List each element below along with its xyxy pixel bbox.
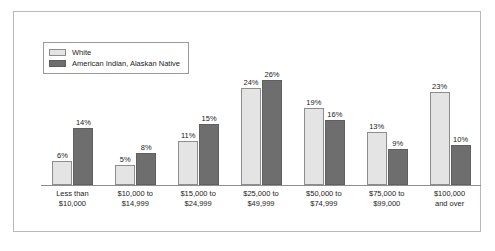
x-tick-line-1: $75,000 to	[355, 189, 418, 199]
bar-value-label: 26%	[255, 70, 289, 79]
x-tick-label: $25,000 to$49,999	[230, 189, 293, 209]
bar-value-label: 10%	[444, 135, 478, 144]
plot-area: 6%14%5%8%11%15%24%26%19%16%13%9%23%10%	[41, 36, 481, 185]
bar-group: 23%10%	[418, 36, 481, 185]
x-tick-line-1: $25,000 to	[230, 189, 293, 199]
x-tick-line-1: Less than	[41, 189, 104, 199]
bar-rect	[241, 88, 261, 185]
x-tick-line-1: $100,000	[418, 189, 481, 199]
x-tick-line-1: $15,000 to	[167, 189, 230, 199]
bar-rect	[115, 165, 135, 185]
bar-group: 5%8%	[104, 36, 167, 185]
x-tick-label: Less than$10,000	[41, 189, 104, 209]
x-tick-line-2: $24,999	[167, 199, 230, 209]
bar-rect	[199, 124, 219, 185]
x-tick-line-1: $10,000 to	[104, 189, 167, 199]
bar-rect	[325, 120, 345, 185]
bar-value-label: 15%	[192, 114, 226, 123]
x-tick-line-2: and over	[418, 199, 481, 209]
bar-group: 6%14%	[41, 36, 104, 185]
bar-rect	[262, 80, 282, 185]
bar-value-label: 16%	[318, 110, 352, 119]
bar-rect	[304, 108, 324, 185]
x-tick-line-2: $10,000	[41, 199, 104, 209]
x-tick-label: $100,000and over	[418, 189, 481, 209]
bar-value-label: 23%	[423, 82, 457, 91]
bar-value-label: 19%	[297, 98, 331, 107]
bar-group: 13%9%	[355, 36, 418, 185]
bar-rect	[388, 149, 408, 185]
bar-rect	[73, 128, 93, 185]
x-tick-label: $15,000 to$24,999	[167, 189, 230, 209]
bar-rect	[178, 141, 198, 185]
x-tick-label: $50,000 to$74,999	[292, 189, 355, 209]
bar-rect	[52, 161, 72, 185]
bar-group: 19%16%	[292, 36, 355, 185]
x-tick-label: $75,000 to$99,000	[355, 189, 418, 209]
bar-value-label: 8%	[129, 143, 163, 152]
x-axis-tick-labels: Less than$10,000$10,000 to$14,999$15,000…	[41, 189, 481, 215]
x-tick-label: $10,000 to$14,999	[104, 189, 167, 209]
bar-value-label: 13%	[360, 122, 394, 131]
x-tick-line-2: $74,999	[292, 199, 355, 209]
bar-group: 24%26%	[230, 36, 293, 185]
x-axis-line	[41, 185, 481, 186]
bar-group: 11%15%	[167, 36, 230, 185]
chart-frame: White American Indian, Alaskan Native 6%…	[13, 11, 481, 232]
x-tick-line-2: $99,000	[355, 199, 418, 209]
bar-value-label: 9%	[381, 139, 415, 148]
bar-rect	[451, 145, 471, 185]
x-tick-line-2: $14,999	[104, 199, 167, 209]
bar-rect	[136, 153, 156, 185]
x-tick-line-2: $49,999	[230, 199, 293, 209]
bar-value-label: 14%	[66, 118, 100, 127]
x-tick-line-1: $50,000 to	[292, 189, 355, 199]
